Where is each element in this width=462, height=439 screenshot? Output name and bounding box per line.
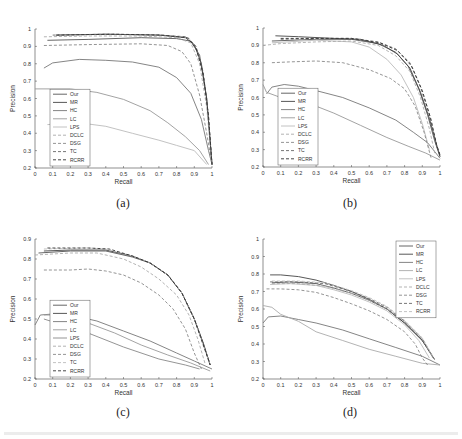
legend-label: LC [70, 116, 77, 122]
y-tick-label: 0.3 [251, 147, 259, 153]
x-tick-label: 0.3 [312, 170, 320, 176]
legend-label: DSG [70, 140, 81, 146]
y-axis-label: Precision [237, 295, 244, 322]
y-tick-label: 0.2 [23, 165, 31, 171]
legend: OurMRHCLCLPSDCLCDSGTCRCRR [396, 241, 436, 318]
x-tick-label: 0.4 [102, 171, 110, 177]
x-tick-label: 0.6 [365, 382, 373, 388]
x-tick-label: 1 [438, 170, 441, 176]
y-tick-label: 0.6 [251, 95, 259, 101]
y-tick-label: 0.6 [23, 296, 31, 302]
legend-label: LPS [70, 335, 80, 341]
x-tick-label: 0.1 [277, 382, 285, 388]
legend-label: Our [298, 90, 307, 96]
caption-d: (d) [330, 405, 370, 420]
pr-chart-d: 00.10.20.30.40.50.60.70.80.910.20.30.40.… [231, 220, 462, 405]
y-tick-label: 0.9 [251, 254, 259, 260]
x-tick-label: 0 [33, 171, 36, 177]
legend-label: MR [416, 251, 424, 257]
figure-caption-cropped [0, 428, 462, 439]
legend: OurMRHCLCLPSDCLCDSGTCRCRR [50, 89, 90, 166]
legend: OurMRHCLCLPSDCLCDSGTCRCRR [278, 88, 318, 165]
legend-label: LC [416, 267, 423, 273]
legend-label: RCRR [70, 368, 85, 374]
y-tick-label: 0.5 [251, 324, 259, 330]
y-tick-label: 0.6 [23, 96, 31, 102]
y-tick-label: 0.3 [251, 359, 259, 365]
legend-label: TC [70, 359, 77, 365]
chart-panel-c: 00.10.20.30.40.50.60.70.80.910.20.30.40.… [0, 220, 231, 405]
legend: OurMRHCLCLPSDCLCDSGTCRCRR [50, 300, 90, 377]
legend-label: DCLC [70, 132, 84, 138]
y-tick-label: 0.9 [251, 42, 259, 48]
y-tick-label: 0.7 [23, 78, 31, 84]
y-tick-label: 0.7 [251, 289, 259, 295]
x-tick-label: 0.7 [383, 382, 391, 388]
legend-label: Our [70, 302, 79, 308]
legend-label: LPS [298, 123, 308, 129]
y-tick-label: 1 [256, 236, 259, 242]
legend-label: DSG [416, 292, 427, 298]
x-tick-label: 0.6 [365, 170, 373, 176]
x-axis-label: Recall [342, 177, 361, 184]
x-tick-label: 0.4 [102, 382, 110, 388]
legend-label: HC [70, 318, 78, 324]
legend-label: DCLC [70, 343, 84, 349]
legend-label: HC [416, 259, 424, 265]
chart-panel-b: 00.10.20.30.40.50.60.70.80.910.20.30.40.… [231, 0, 462, 190]
x-tick-label: 0.9 [190, 171, 198, 177]
x-tick-label: 0.4 [330, 170, 338, 176]
y-tick-label: 1 [28, 26, 31, 32]
x-tick-label: 1 [438, 382, 441, 388]
y-tick-label: 0.8 [251, 271, 259, 277]
legend-label: Our [416, 243, 425, 249]
legend-label: DCLC [416, 284, 430, 290]
x-tick-label: 0.2 [67, 171, 75, 177]
y-tick-label: 0.8 [251, 60, 259, 66]
x-tick-label: 0 [261, 382, 264, 388]
legend-label: LPS [416, 276, 426, 282]
x-tick-label: 0.1 [49, 382, 57, 388]
legend-label: TC [416, 300, 423, 306]
x-tick-label: 0.2 [295, 382, 303, 388]
x-tick-label: 0.3 [84, 171, 92, 177]
caption-b: (b) [330, 196, 370, 211]
x-tick-label: 0.6 [137, 171, 145, 177]
legend-label: RCRR [70, 157, 85, 163]
x-tick-label: 1 [210, 171, 213, 177]
x-axis-label: Recall [114, 178, 133, 185]
x-tick-label: 0.5 [348, 170, 356, 176]
x-tick-label: 0.1 [277, 170, 285, 176]
legend-label: MR [70, 310, 78, 316]
y-tick-label: 0.4 [23, 130, 31, 136]
y-tick-label: 0.2 [251, 376, 259, 382]
x-tick-label: 0.5 [348, 382, 356, 388]
y-tick-label: 0.2 [23, 376, 31, 382]
legend-label: LC [70, 327, 77, 333]
y-tick-label: 0.3 [23, 356, 31, 362]
x-tick-label: 0.1 [49, 171, 57, 177]
x-tick-label: 0.7 [155, 171, 163, 177]
chart-panel-a: 00.10.20.30.40.50.60.70.80.910.20.30.40.… [0, 0, 231, 190]
legend-label: HC [298, 106, 306, 112]
y-tick-label: 0.7 [23, 276, 31, 282]
x-tick-label: 0.7 [383, 170, 391, 176]
x-tick-label: 0.9 [190, 382, 198, 388]
x-tick-label: 0.9 [418, 170, 426, 176]
y-tick-label: 0.5 [251, 112, 259, 118]
legend-label: LPS [70, 124, 80, 130]
legend-label: DSG [70, 351, 81, 357]
legend-label: DCLC [298, 131, 312, 137]
y-tick-label: 0.8 [23, 61, 31, 67]
legend-label: RCRR [416, 308, 431, 314]
y-tick-label: 0.5 [23, 316, 31, 322]
y-tick-label: 0.5 [23, 113, 31, 119]
y-axis-label: Precision [9, 85, 16, 112]
legend-label: HC [70, 107, 78, 113]
x-tick-label: 0 [261, 170, 264, 176]
y-tick-label: 0.4 [251, 129, 259, 135]
legend-label: TC [70, 148, 77, 154]
legend-label: MR [298, 98, 306, 104]
y-tick-label: 1 [256, 25, 259, 31]
x-tick-label: 0.8 [173, 171, 181, 177]
